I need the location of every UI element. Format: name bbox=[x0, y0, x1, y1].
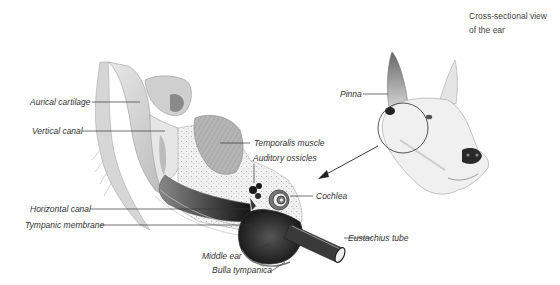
diagram-caption: Cross-sectional view of the ear bbox=[469, 9, 547, 37]
dog-head-illustration bbox=[378, 52, 489, 194]
label-tympanic-membrane: Tympanic membrane bbox=[25, 221, 104, 230]
label-aurical-cartilage: Aurical cartilage bbox=[30, 98, 90, 107]
label-bulla-tympanica: Bulla tympanica bbox=[212, 266, 272, 275]
ear-anatomy-diagram: Cross-sectional view of the ear Aurical … bbox=[0, 0, 560, 285]
arrow-icon bbox=[318, 146, 378, 179]
label-temporalis-muscle: Temporalis muscle bbox=[254, 139, 325, 148]
label-middle-ear: Middle ear bbox=[202, 252, 242, 261]
caption-line-2: of the ear bbox=[469, 23, 547, 37]
label-pinna: Pinna bbox=[340, 90, 362, 99]
ear-cross-section bbox=[92, 62, 347, 266]
label-eustachius-tube: Eustachius tube bbox=[348, 234, 408, 243]
label-vertical-canal: Vertical canal bbox=[32, 127, 83, 136]
label-cochlea: Cochlea bbox=[316, 192, 347, 201]
cochlea-shape bbox=[269, 190, 289, 210]
label-auditory-ossicles: Auditory ossicles bbox=[253, 154, 317, 163]
label-horizontal-canal: Horizontal canal bbox=[30, 205, 91, 214]
caption-line-1: Cross-sectional view bbox=[469, 9, 547, 23]
